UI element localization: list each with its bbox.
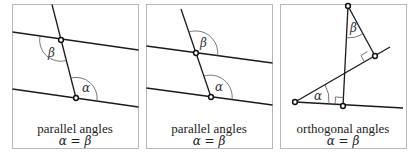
vertex-point [293,100,298,105]
vertex-point [373,54,378,59]
intersection-point [209,95,214,100]
beta-label: β [47,46,55,60]
beta-label: β [349,21,357,35]
intersection-point [74,96,79,101]
intersection-point [59,38,64,43]
equation: α = β [59,134,92,148]
intersection-point [194,51,199,56]
alpha-label: α [82,81,90,95]
alpha-label: α [314,89,322,103]
vertex-point [341,104,346,109]
beta-label: β [199,36,207,50]
angle-diagrams: β α parallel angles α = β β α parallel a… [0,0,418,158]
equation: α = β [193,134,226,148]
panel-parallel-angles-1: β α parallel angles α = β [13,5,139,149]
equation: α = β [327,134,360,148]
vertex-point [346,4,351,9]
panel-orthogonal-angles: α β orthogonal angles α = β [281,4,407,149]
panel-parallel-angles-2: β α parallel angles α = β [147,5,273,149]
alpha-label: α [215,80,223,94]
